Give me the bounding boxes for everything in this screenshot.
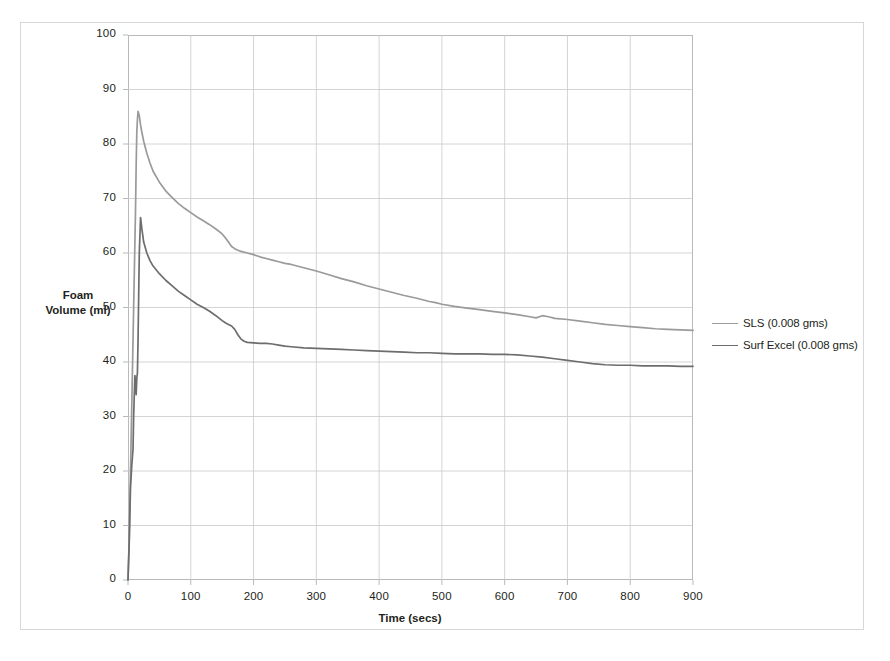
legend-line-swatch (712, 323, 738, 324)
y-tick-label: 20 (76, 463, 116, 475)
chart-page: 0102030405060708090100 01002003004005006… (0, 0, 890, 661)
legend-item: SLS (0.008 gms) (712, 312, 882, 334)
y-tick-label: 90 (76, 82, 116, 94)
line-chart: 0102030405060708090100 01002003004005006… (0, 0, 890, 661)
y-tick-label: 60 (76, 245, 116, 257)
legend-item-label: SLS (0.008 gms) (743, 317, 828, 329)
y-axis-title-line2: Volume (ml) (38, 303, 118, 318)
x-tick-label: 200 (234, 590, 274, 602)
chart-legend: SLS (0.008 gms)Surf Excel (0.008 gms) (712, 312, 882, 356)
series-line-1 (128, 111, 693, 580)
x-tick-label: 900 (673, 590, 713, 602)
x-tick-label: 400 (359, 590, 399, 602)
y-tick-label: 10 (76, 518, 116, 530)
x-tick-label: 800 (610, 590, 650, 602)
y-tick-label: 100 (76, 27, 116, 39)
x-tick-label: 300 (296, 590, 336, 602)
legend-item-label: Surf Excel (0.008 gms) (743, 339, 858, 351)
y-tick-label: 40 (76, 354, 116, 366)
x-tick-label: 0 (108, 590, 148, 602)
y-tick-label: 30 (76, 409, 116, 421)
x-axis-title: Time (secs) (350, 612, 470, 624)
y-axis-title-line1: Foam (38, 288, 118, 303)
legend-item: Surf Excel (0.008 gms) (712, 334, 882, 356)
x-tick-label: 700 (547, 590, 587, 602)
y-tick-label: 80 (76, 136, 116, 148)
y-tick-label: 70 (76, 191, 116, 203)
y-tick-label: 0 (76, 572, 116, 584)
x-tick-label: 100 (171, 590, 211, 602)
x-tick-label: 500 (422, 590, 462, 602)
x-tick-label: 600 (485, 590, 525, 602)
series-line-2 (128, 218, 693, 580)
legend-line-swatch (712, 345, 738, 346)
y-axis-title: Foam Volume (ml) (38, 288, 118, 318)
